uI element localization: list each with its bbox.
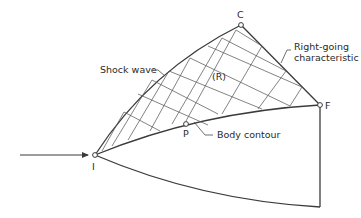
shock-wave-label: Shock wave <box>100 64 157 75</box>
right-going-leader <box>281 50 291 63</box>
region-R-label: (R) <box>212 71 226 82</box>
point-P-marker <box>184 122 189 127</box>
right-going-label-line1: Right-going <box>294 41 349 52</box>
characteristics-diagram: I C F P (R) Shock wave Right-going chara… <box>0 0 361 218</box>
upper-body-contour <box>95 105 320 155</box>
body-contour-label: Body contour <box>217 129 281 140</box>
point-I-marker <box>93 153 98 158</box>
point-C-label: C <box>237 9 244 20</box>
point-C-marker <box>239 23 244 28</box>
right-going-characteristic-line <box>241 25 320 105</box>
body-contour-leader <box>194 122 213 135</box>
point-F-marker <box>318 103 323 108</box>
point-P-label: P <box>183 128 189 139</box>
right-going-label-line2: characteristic <box>294 52 359 63</box>
lower-body-contour <box>95 155 320 207</box>
point-F-label: F <box>325 100 330 111</box>
point-I-label: I <box>92 161 95 172</box>
